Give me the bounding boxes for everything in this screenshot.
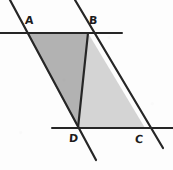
vertex-label-a: A: [25, 15, 34, 26]
region-triangle-bdc: [78, 33, 145, 128]
geometry-figure: A B D C: [0, 0, 173, 170]
vertex-label-b: B: [89, 15, 98, 26]
vertex-label-c: C: [135, 134, 144, 145]
vertex-label-d: D: [69, 133, 79, 144]
